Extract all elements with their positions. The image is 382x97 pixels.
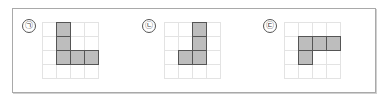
grid-cell — [70, 36, 85, 51]
grid-cell — [326, 22, 341, 37]
grid-cell — [56, 64, 71, 79]
figure-c-label: ㉢ — [263, 19, 277, 33]
grid-cell — [284, 64, 299, 79]
grid-cell — [70, 22, 85, 37]
grid-cell — [178, 36, 193, 51]
grid-cell — [312, 50, 327, 65]
grid-cell — [312, 22, 327, 37]
figure-a-grid — [42, 22, 98, 78]
grid-cell — [206, 64, 221, 79]
grid-cell — [70, 64, 85, 79]
grid-cell — [326, 50, 341, 65]
grid-cell — [84, 36, 99, 51]
grid-cell — [84, 22, 99, 37]
figure-b-grid — [164, 22, 220, 78]
grid-cell — [284, 22, 299, 37]
grid-cell — [178, 22, 193, 37]
grid-cell — [42, 50, 57, 65]
filled-cell — [70, 50, 85, 65]
grid-cell — [206, 36, 221, 51]
filled-cell — [192, 22, 207, 37]
grid-cell — [42, 36, 57, 51]
filled-cell — [56, 36, 71, 51]
filled-cell — [312, 36, 327, 51]
filled-cell — [84, 50, 99, 65]
figure-a-label: ㉠ — [22, 19, 36, 33]
grid-cell — [298, 64, 313, 79]
grid-cell — [284, 50, 299, 65]
filled-cell — [326, 36, 341, 51]
filled-cell — [178, 50, 193, 65]
grid-cell — [42, 22, 57, 37]
grid-cell — [164, 64, 179, 79]
grid-cell — [284, 36, 299, 51]
filled-cell — [192, 50, 207, 65]
grid-cell — [42, 64, 57, 79]
grid-cell — [326, 64, 341, 79]
grid-cell — [164, 36, 179, 51]
figure-b-label: ㉡ — [142, 19, 156, 33]
filled-cell — [56, 22, 71, 37]
grid-cell — [164, 50, 179, 65]
grid-cell — [312, 64, 327, 79]
filled-cell — [298, 36, 313, 51]
grid-cell — [164, 22, 179, 37]
grid-cell — [206, 22, 221, 37]
grid-cell — [178, 64, 193, 79]
grid-cell — [206, 50, 221, 65]
figure-frame: ㉠ ㉡ ㉢ — [12, 8, 376, 93]
filled-cell — [56, 50, 71, 65]
grid-cell — [298, 22, 313, 37]
figure-c-grid — [284, 22, 340, 78]
grid-cell — [84, 64, 99, 79]
filled-cell — [192, 36, 207, 51]
filled-cell — [298, 50, 313, 65]
grid-cell — [192, 64, 207, 79]
